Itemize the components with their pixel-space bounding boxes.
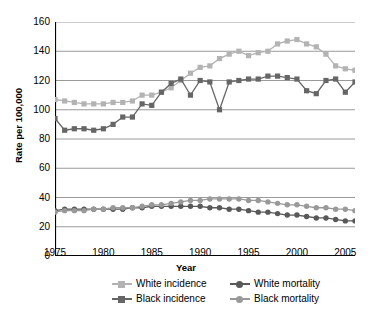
marker-white_incidence-1977 [72, 100, 77, 105]
series-line-white_incidence [55, 40, 355, 104]
marker-black_incidence-1993 [227, 79, 232, 84]
marker-black_incidence-2001 [304, 88, 309, 93]
marker-white_incidence-1995 [246, 53, 251, 58]
marker-black_incidence-1990 [198, 78, 203, 83]
marker-black_incidence-1977 [72, 126, 77, 131]
marker-white_incidence-2006 [352, 68, 355, 73]
marker-black_mortality-1992 [217, 196, 222, 201]
marker-white_incidence-1980 [101, 101, 106, 106]
series-line-black_incidence [55, 76, 355, 130]
marker-white_mortality-1995 [246, 208, 251, 213]
marker-black_incidence-1978 [81, 126, 86, 131]
marker-black_incidence-2005 [343, 90, 348, 95]
series-white_incidence [55, 37, 355, 107]
marker-black_mortality-1986 [159, 202, 164, 207]
marker-black_incidence-1994 [236, 78, 241, 83]
y-tick-label-120: 120 [4, 76, 50, 86]
marker-black_mortality-2006 [352, 208, 355, 213]
marker-black_mortality-1998 [275, 201, 280, 206]
x-axis-title: Year [0, 262, 372, 273]
legend-label-white_incidence: White incidence [136, 278, 207, 289]
marker-black_mortality-2000 [294, 202, 299, 207]
marker-white_incidence-2004 [333, 63, 338, 68]
legend-swatch-black_mortality [230, 294, 250, 304]
marker-black_mortality-1989 [188, 198, 193, 203]
marker-white_incidence-1984 [140, 93, 145, 98]
marker-white_incidence-1976 [62, 98, 67, 103]
marker-white_mortality-2006 [352, 218, 355, 223]
marker-black_incidence-1975 [55, 116, 58, 121]
marker-white_incidence-1989 [188, 71, 193, 76]
marker-black_incidence-1992 [217, 107, 222, 112]
marker-black_mortality-1988 [178, 199, 183, 204]
marker-black_mortality-2002 [314, 205, 319, 210]
marker-white_incidence-1981 [110, 100, 115, 105]
marker-black_mortality-1995 [246, 198, 251, 203]
marker-black_incidence-2003 [323, 78, 328, 83]
marker-white_incidence-1975 [55, 97, 58, 102]
marker-white_incidence-2001 [304, 41, 309, 46]
marker-black_incidence-1991 [207, 79, 212, 84]
marker-black_incidence-1999 [285, 75, 290, 80]
marker-white_incidence-1996 [256, 50, 261, 55]
marker-black_incidence-2002 [314, 91, 319, 96]
chart-figure: Rate per 100,000 Year 020406080100120140… [0, 0, 372, 315]
marker-black_mortality-1981 [110, 205, 115, 210]
marker-white_incidence-2005 [343, 66, 348, 71]
marker-white_mortality-1990 [197, 204, 202, 209]
series-black_incidence [55, 74, 355, 133]
marker-black_mortality-1984 [139, 204, 144, 209]
marker-white_incidence-1990 [198, 65, 203, 70]
marker-white_mortality-1999 [285, 212, 290, 217]
marker-black_mortality-1987 [168, 201, 173, 206]
marker-black_incidence-1980 [101, 126, 106, 131]
marker-white_mortality-1991 [207, 205, 212, 210]
legend-item-white_mortality[interactable]: White mortality [230, 278, 320, 289]
marker-black_mortality-1978 [81, 208, 86, 213]
legend-item-black_incidence[interactable]: Black incidence [112, 293, 205, 304]
marker-black_incidence-2004 [333, 76, 338, 81]
legend-swatch-white_mortality [230, 279, 250, 289]
marker-white_mortality-1996 [256, 209, 261, 214]
marker-black_incidence-1988 [178, 76, 183, 81]
marker-black_incidence-1998 [275, 74, 280, 79]
marker-black_incidence-1989 [188, 93, 193, 98]
marker-white_incidence-1982 [120, 100, 125, 105]
legend-label-black_mortality: Black mortality [254, 293, 319, 304]
marker-black_mortality-2003 [323, 205, 328, 210]
marker-black_incidence-1984 [140, 101, 145, 106]
series-line-white_mortality [55, 206, 355, 221]
marker-white_incidence-1997 [265, 49, 270, 54]
marker-white_incidence-1999 [285, 38, 290, 43]
marker-white_incidence-1992 [217, 56, 222, 61]
legend-label-black_incidence: Black incidence [136, 293, 205, 304]
marker-black_mortality-2001 [304, 204, 309, 209]
marker-black_incidence-2006 [352, 79, 355, 84]
y-tick-label-140: 140 [4, 46, 50, 56]
marker-white_mortality-2001 [304, 214, 309, 219]
marker-black_mortality-1985 [149, 202, 154, 207]
marker-black_incidence-1983 [130, 114, 135, 119]
marker-black_mortality-1976 [62, 208, 67, 213]
marker-white_incidence-1991 [207, 63, 212, 68]
chart-legend: White incidenceBlack incidenceWhite mort… [0, 278, 372, 310]
marker-white_mortality-2004 [333, 217, 338, 222]
marker-white_incidence-2003 [323, 52, 328, 57]
marker-white_mortality-1998 [275, 211, 280, 216]
marker-white_incidence-1985 [149, 93, 154, 98]
marker-white_mortality-1994 [236, 207, 241, 212]
y-tick-label-60: 60 [4, 163, 50, 173]
marker-black_mortality-1997 [265, 199, 270, 204]
legend-swatch-white_incidence [112, 279, 132, 289]
marker-black_mortality-1999 [285, 202, 290, 207]
marker-black_incidence-1979 [91, 128, 96, 133]
legend-item-white_incidence[interactable]: White incidence [112, 278, 207, 289]
marker-black_incidence-1985 [149, 103, 154, 108]
marker-white_mortality-1989 [188, 204, 193, 209]
marker-white_incidence-1978 [81, 101, 86, 106]
marker-white_incidence-2000 [294, 37, 299, 42]
marker-white_mortality-2002 [314, 215, 319, 220]
y-tick-label-20: 20 [4, 222, 50, 232]
marker-black_incidence-1996 [256, 76, 261, 81]
legend-item-black_mortality[interactable]: Black mortality [230, 293, 319, 304]
